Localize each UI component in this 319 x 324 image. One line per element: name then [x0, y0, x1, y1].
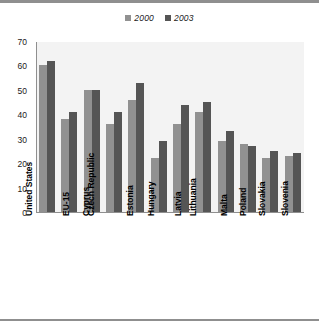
bar-2000 — [106, 124, 114, 212]
legend-label: 2003 — [174, 14, 194, 23]
legend-swatch-icon — [165, 15, 171, 21]
x-axis-label-cell: Latvia — [170, 216, 192, 312]
x-axis-tick-label: Malta — [219, 194, 229, 216]
x-axis-tick-label: Poland — [238, 188, 248, 216]
y-axis-tick-label: 30 — [18, 135, 27, 145]
legend-item-2000: 2000 — [125, 14, 154, 23]
x-axis-label-cell: Czech Republic — [103, 216, 125, 312]
legend-item-2003: 2003 — [165, 14, 194, 23]
x-axis-label-cell: United States — [36, 216, 58, 312]
y-axis-tick-label: 40 — [18, 110, 27, 120]
x-axis-label-cell: Cyprus — [81, 216, 103, 312]
x-axis-tick-label: Slovenia — [279, 181, 289, 216]
x-axis-label-cell: Poland — [237, 216, 259, 312]
x-axis-tick-label: Slovakia — [257, 182, 267, 217]
bar-2000 — [39, 65, 47, 212]
x-axis-tick-label: Estonia — [125, 185, 135, 216]
bar-2003 — [203, 102, 211, 212]
bar-2003 — [248, 146, 256, 212]
x-axis-tick-label: Czech Republic — [86, 153, 96, 216]
x-axis-tick-label: EU-15 — [61, 192, 71, 216]
bar-2003 — [47, 61, 55, 212]
bar-group — [103, 42, 125, 213]
x-axis-label-cell: Estonia — [125, 216, 147, 312]
y-axis-tick-label: 70 — [18, 37, 27, 47]
x-axis-tick-label: Hungary — [146, 182, 156, 216]
x-axis-tick-label: Lithuania — [189, 178, 199, 216]
bar-2003 — [293, 153, 301, 212]
x-axis-label-cell: EU-15 — [58, 216, 80, 312]
bar-group — [58, 42, 80, 213]
x-axis-labels: United StatesEU-15CyprusCzech RepublicEs… — [36, 216, 304, 312]
bar-group — [215, 42, 237, 213]
bar-2003 — [136, 83, 144, 212]
bar-chart: 20002003 706050403020100 United StatesEU… — [0, 0, 319, 324]
x-axis-label-cell: Slovakia — [259, 216, 281, 312]
bar-2003 — [114, 112, 122, 212]
y-axis-tick-label: 60 — [18, 61, 27, 71]
legend-label: 2000 — [134, 14, 154, 23]
x-axis-label-cell: Slovenia — [282, 216, 304, 312]
legend-swatch-icon — [125, 15, 131, 21]
chart-frame-top-rule — [0, 0, 319, 3]
bar-2003 — [270, 151, 278, 212]
x-axis-tick-label: Latvia — [173, 191, 183, 216]
x-axis-label-cell: Malta — [215, 216, 237, 312]
x-axis-label-cell: Hungary — [148, 216, 170, 312]
y-axis-tick-label: 50 — [18, 86, 27, 96]
x-axis-label-cell: Lithuania — [192, 216, 214, 312]
bar-2003 — [159, 141, 167, 212]
x-axis-tick-label: United States — [24, 162, 34, 216]
chart-legend: 20002003 — [0, 14, 319, 23]
bar-group — [36, 42, 58, 213]
chart-frame-bottom-rule — [0, 319, 319, 321]
